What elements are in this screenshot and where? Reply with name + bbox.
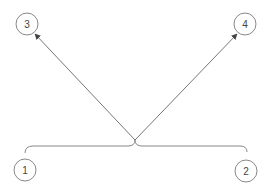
diagram-canvas: 3 4 1 2	[0, 0, 267, 193]
curly-brace	[25, 140, 247, 153]
arrow-to-node-3	[35, 34, 135, 140]
node-3: 3	[16, 13, 38, 35]
arrow-to-node-4	[135, 34, 237, 140]
node-2: 2	[235, 160, 257, 182]
node-4-label: 4	[242, 19, 248, 30]
node-1: 1	[14, 159, 36, 181]
node-1-label: 1	[22, 165, 28, 176]
node-4: 4	[234, 13, 256, 35]
node-2-label: 2	[243, 166, 249, 177]
node-3-label: 3	[24, 19, 30, 30]
